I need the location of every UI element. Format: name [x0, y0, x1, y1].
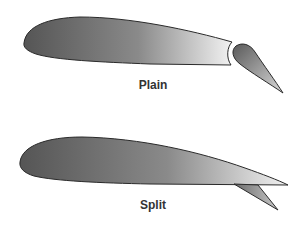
flap-diagram	[0, 0, 306, 227]
plain-main-wing	[24, 17, 232, 65]
split-flap-label: Split	[113, 198, 193, 212]
split-main-wing	[20, 137, 288, 185]
plain-flap	[233, 44, 283, 93]
plain-flap-label: Plain	[113, 78, 193, 92]
split-flap	[234, 184, 278, 210]
